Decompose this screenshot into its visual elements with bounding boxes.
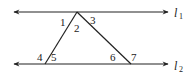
angle-3: 3 (90, 14, 96, 26)
angle-2: 2 (74, 22, 80, 34)
triangle-right-side (77, 12, 131, 64)
label-l2: l 2 (174, 59, 183, 74)
angle-4: 4 (37, 51, 43, 63)
svg-text:1: 1 (179, 12, 183, 21)
angle-1: 1 (60, 16, 66, 28)
angle-5: 5 (51, 51, 57, 63)
angle-6: 6 (110, 51, 116, 63)
angle-7: 7 (131, 51, 137, 63)
label-l1: l 1 (174, 6, 183, 21)
svg-text:2: 2 (179, 65, 183, 74)
svg-text:l: l (174, 59, 178, 73)
parallel-lines-triangle-diagram: l 1 l 2 1 2 3 4 5 6 7 (0, 0, 194, 77)
svg-text:l: l (174, 6, 178, 20)
